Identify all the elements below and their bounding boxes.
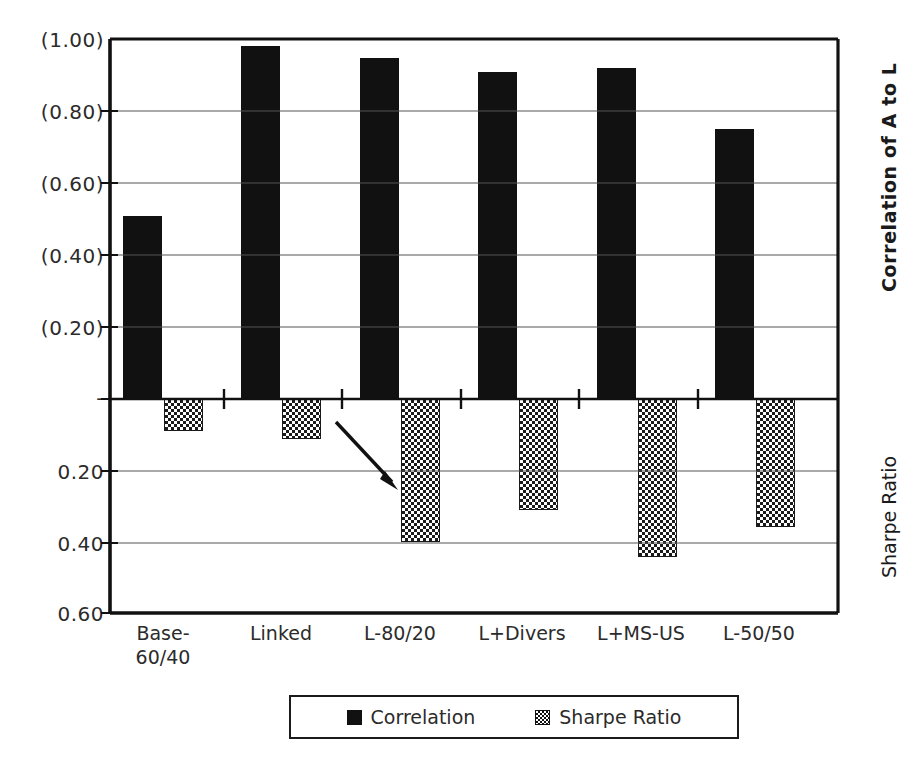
legend-label-sharpe-ratio: Sharpe Ratio (559, 706, 681, 728)
bar-sharpe-linked (282, 399, 321, 439)
xtick-line1: L-80/20 (345, 622, 455, 646)
chart-legend: Correlation Sharpe Ratio (289, 695, 739, 739)
bar-correlation-l-divers (478, 72, 517, 399)
bar-chart: (1.00) (0.80) (0.60) (0.40) (0.20) - 0.2… (0, 0, 913, 759)
legend-swatch-correlation-icon (347, 710, 362, 725)
ytick-label-4: (0.40) (8, 244, 104, 268)
xtick-label-base-6040: Base- 60/40 (108, 622, 218, 670)
ytick-label-8: 0.60 (8, 602, 104, 626)
xtick-line1: Linked (226, 622, 336, 646)
bar-sharpe-l-divers (519, 399, 558, 510)
legend-label-correlation: Correlation (371, 706, 476, 728)
legend-swatch-sharpe-ratio-icon (535, 710, 550, 725)
xtick-label-l-divers: L+Divers (463, 622, 581, 646)
bar-sharpe-l-8020 (401, 399, 440, 542)
ytick-label-6: 0.20 (8, 460, 104, 484)
legend-entry-correlation: Correlation (347, 706, 476, 728)
ytick-label-3: (0.60) (8, 172, 104, 196)
bar-correlation-linked (241, 46, 280, 399)
xtick-line1: L-50/50 (700, 622, 818, 646)
xtick-line1: Base- (108, 622, 218, 646)
ytick-label-2: (0.80) (8, 100, 104, 124)
xtick-line2: 60/40 (108, 646, 218, 670)
xtick-label-l-5050: L-50/50 (700, 622, 818, 646)
ytick-label-zero: - (8, 386, 104, 410)
xtick-label-linked: Linked (226, 622, 336, 646)
annotation-arrow (336, 422, 398, 490)
ytick-label-7: 0.40 (8, 532, 104, 556)
bar-correlation-l-8020 (360, 58, 399, 399)
xtick-line1: L+Divers (463, 622, 581, 646)
bar-correlation-base-6040 (123, 216, 162, 399)
bar-sharpe-l-5050 (756, 399, 795, 527)
bar-correlation-l-5050 (715, 129, 754, 399)
xtick-label-l-8020: L-80/20 (345, 622, 455, 646)
ytick-label-1: (1.00) (8, 28, 104, 52)
axis-title-sharpe-ratio: Sharpe Ratio (878, 456, 900, 578)
xtick-line1: L+MS-US (582, 622, 700, 646)
ytick-label-5: (0.20) (8, 316, 104, 340)
xtick-label-l-ms-us: L+MS-US (582, 622, 700, 646)
bar-sharpe-l-ms-us (638, 399, 677, 557)
axis-title-correlation: Correlation of A to L (878, 63, 900, 292)
bar-correlation-l-ms-us (597, 68, 636, 399)
bar-sharpe-base-6040 (164, 399, 203, 431)
legend-entry-sharpe-ratio: Sharpe Ratio (535, 706, 681, 728)
